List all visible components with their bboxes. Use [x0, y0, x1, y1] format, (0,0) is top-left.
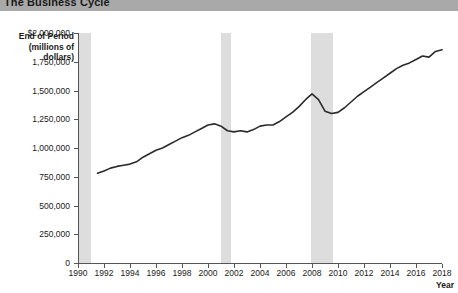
y-axis-tick-label: 1,750,000 [0, 57, 70, 67]
y-axis-tick [74, 33, 79, 34]
y-axis-tick-label: 1,000,000 [0, 143, 70, 153]
y-axis-tick-label: 750,000 [0, 172, 70, 182]
y-axis-tick-label: 1,250,000 [0, 114, 70, 124]
plot-area [78, 33, 442, 263]
y-axis-tick [74, 177, 79, 178]
page-title: The Business Cycle [4, 0, 110, 8]
figure-title-bar: The Business Cycle [0, 0, 458, 11]
series-line-end-of-period [98, 50, 443, 174]
y-axis-tick-label: $2,000,000 [0, 28, 70, 38]
y-axis-tick [74, 206, 79, 207]
x-axis-tick-label: 2018 [422, 268, 458, 278]
y-axis-tick-label: 0 [0, 258, 70, 268]
series-line-chart [78, 33, 442, 263]
y-axis-tick [74, 234, 79, 235]
y-axis-tick [74, 148, 79, 149]
business-cycle-figure: The Business Cycle End of Period (millio… [0, 0, 458, 293]
y-axis-tick [74, 119, 79, 120]
y-axis-tick-label: 1,500,000 [0, 86, 70, 96]
y-axis-tick-label: 250,000 [0, 229, 70, 239]
y-axis-title-line-2: (millions of [0, 42, 74, 53]
y-axis-tick [74, 91, 79, 92]
y-axis-tick [74, 62, 79, 63]
x-axis-title: Year [398, 280, 454, 290]
y-axis-tick-label: 500,000 [0, 201, 70, 211]
